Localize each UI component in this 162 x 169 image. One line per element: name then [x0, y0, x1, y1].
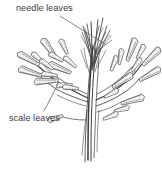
conifer-branch-illustration: [0, 0, 162, 169]
label-scale-leaves: scale leaves: [9, 113, 60, 123]
label-needle-leaves: needle leaves: [16, 3, 73, 13]
figure-background: [0, 0, 162, 169]
botanical-figure: needle leaves scale leaves: [0, 0, 162, 169]
